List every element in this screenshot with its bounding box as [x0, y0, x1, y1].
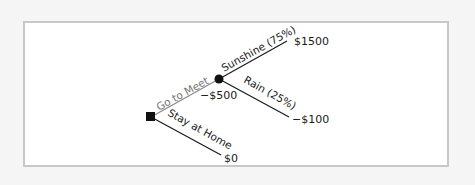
value-stay-at-home-payoff: $0 [224, 152, 238, 165]
diagram-frame: Go to Meet Sunshine (75%) Rain (25%) Sta… [0, 0, 475, 185]
label-stay-at-home: Stay at Home [166, 106, 235, 151]
value-rain-payoff: −$100 [292, 113, 329, 126]
chance-node-circle [215, 75, 224, 84]
decision-node-square [146, 112, 155, 121]
value-sunshine-payoff: $1500 [294, 35, 329, 48]
decision-tree-canvas: Go to Meet Sunshine (75%) Rain (25%) Sta… [0, 0, 475, 185]
value-go-to-meet-cost: −$500 [200, 89, 237, 102]
label-rain: Rain (25%) [242, 73, 299, 112]
label-sunshine: Sunshine (75%) [219, 23, 297, 74]
